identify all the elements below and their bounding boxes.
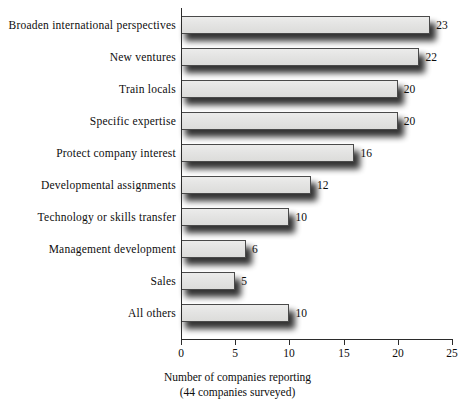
category-label: Management development bbox=[0, 243, 176, 255]
bar-chart: Broaden international perspectives23New … bbox=[0, 0, 475, 401]
bar-value-label: 10 bbox=[295, 211, 307, 223]
x-axis-tick-label: 0 bbox=[178, 347, 184, 359]
x-axis-tick-label: 25 bbox=[446, 347, 458, 359]
bar bbox=[181, 176, 311, 194]
category-label: Technology or skills transfer bbox=[0, 211, 176, 223]
bar-value-label: 23 bbox=[436, 19, 448, 31]
x-axis-title-line1: Number of companies reporting bbox=[0, 370, 475, 384]
bar bbox=[181, 16, 430, 34]
x-axis-tick bbox=[344, 340, 345, 345]
x-axis-tick bbox=[289, 340, 290, 345]
bar bbox=[181, 80, 398, 98]
x-axis-tick bbox=[235, 340, 236, 345]
category-label: Developmental assignments bbox=[0, 179, 176, 191]
bar-value-label: 20 bbox=[404, 115, 416, 127]
category-label: Protect company interest bbox=[0, 147, 176, 159]
category-label: Broaden international perspectives bbox=[0, 19, 176, 31]
x-axis-tick-label: 20 bbox=[392, 347, 404, 359]
bar bbox=[181, 304, 289, 322]
bar-value-label: 6 bbox=[252, 243, 258, 255]
bar-value-label: 16 bbox=[360, 147, 372, 159]
y-axis-line bbox=[181, 8, 182, 339]
x-axis-tick-label: 15 bbox=[338, 347, 350, 359]
bar-value-label: 20 bbox=[404, 83, 416, 95]
x-axis-tick bbox=[452, 340, 453, 345]
category-label: Sales bbox=[0, 275, 176, 287]
category-label: New ventures bbox=[0, 51, 176, 63]
x-axis-line bbox=[181, 339, 453, 340]
x-axis-tick-label: 5 bbox=[232, 347, 238, 359]
bar bbox=[181, 208, 289, 226]
bar bbox=[181, 112, 398, 130]
bar bbox=[181, 272, 235, 290]
bar-value-label: 12 bbox=[317, 179, 329, 191]
plot-area: Broaden international perspectives23New … bbox=[0, 0, 475, 401]
bar bbox=[181, 48, 419, 66]
bar-value-label: 5 bbox=[241, 275, 247, 287]
category-label: All others bbox=[0, 307, 176, 319]
x-axis-tick bbox=[398, 340, 399, 345]
x-axis-tick-label: 10 bbox=[283, 347, 295, 359]
x-axis-tick bbox=[181, 340, 182, 345]
x-axis-title-line2: (44 companies surveyed) bbox=[0, 385, 475, 399]
bar bbox=[181, 240, 246, 258]
category-label: Specific expertise bbox=[0, 115, 176, 127]
bar-value-label: 22 bbox=[425, 51, 437, 63]
bar-value-label: 10 bbox=[295, 307, 307, 319]
category-label: Train locals bbox=[0, 83, 176, 95]
bar bbox=[181, 144, 354, 162]
